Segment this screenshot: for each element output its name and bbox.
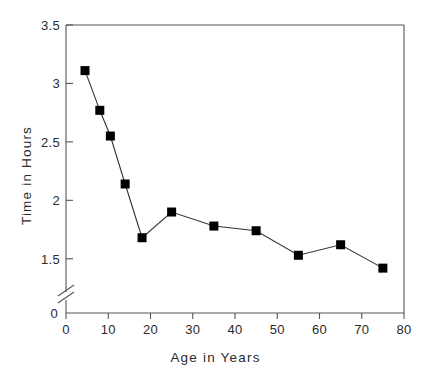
y-tick-label: 3.5: [18, 18, 60, 33]
y-tick-label: 3: [18, 76, 60, 91]
x-tick-label: 0: [62, 322, 70, 337]
y-tick-label: 1.5: [18, 251, 60, 266]
chart-figure: 1.522.533.5 01020304050607080 0 Age in Y…: [0, 0, 431, 385]
data-point-markers: [81, 66, 388, 273]
x-axis-title: Age in Years: [0, 350, 431, 365]
data-series-line: [85, 71, 383, 269]
x-tick-label: 70: [354, 322, 369, 337]
x-tick-label: 60: [312, 322, 327, 337]
x-tick-label: 50: [270, 322, 285, 337]
x-tick-label: 10: [101, 322, 116, 337]
y-axis-title: Time in Hours: [19, 106, 34, 246]
x-tick-label: 30: [185, 322, 200, 337]
ticks-group: [66, 25, 404, 319]
axes-group: [66, 25, 404, 313]
x-tick-label: 20: [143, 322, 158, 337]
x-tick-label: 80: [396, 322, 411, 337]
x-tick-label: 40: [227, 322, 242, 337]
y-axis-zero-label: 0: [36, 306, 58, 321]
